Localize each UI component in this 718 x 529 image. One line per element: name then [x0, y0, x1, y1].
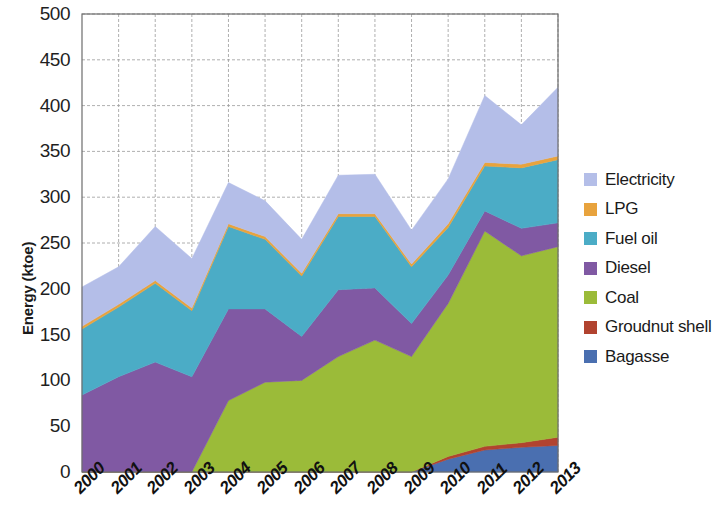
y-axis-tick-label: 400: [40, 96, 70, 115]
y-axis-tick-label: 250: [40, 233, 70, 252]
legend-item-label: Groudnut shell: [605, 317, 711, 337]
legend-item-label: Fuel oil: [605, 229, 657, 249]
legend-item-label: Bagasse: [605, 347, 669, 367]
legend-swatch-icon: [584, 262, 597, 275]
y-axis-tick-label: 350: [40, 141, 70, 160]
legend-swatch-icon: [584, 173, 597, 186]
legend-item-lpg[interactable]: LPG: [584, 195, 718, 225]
y-axis-tick-label: 150: [40, 325, 70, 344]
y-axis-tick-label: 500: [40, 4, 70, 23]
y-axis-tick-labels: 050100150200250300350400450500: [14, 0, 70, 529]
legend-item-diesel[interactable]: Diesel: [584, 254, 718, 284]
legend-item-label: Electricity: [605, 170, 674, 190]
y-axis-tick-label: 200: [40, 279, 70, 298]
legend-swatch-icon: [584, 321, 597, 334]
legend-item-label: Diesel: [605, 258, 650, 278]
legend-swatch-icon: [584, 232, 597, 245]
legend-item-coal[interactable]: Coal: [584, 283, 718, 313]
y-axis-tick-label: 0: [60, 462, 70, 481]
y-axis-tick-label: 450: [40, 50, 70, 69]
legend-item-fuel-oil[interactable]: Fuel oil: [584, 224, 718, 254]
legend-item-bagasse[interactable]: Bagasse: [584, 342, 718, 372]
legend-swatch-icon: [584, 203, 597, 216]
legend-swatch-icon: [584, 350, 597, 363]
chart-legend: ElectricityLPGFuel oilDieselCoalGroudnut…: [584, 165, 718, 372]
legend-item-groudnut-shell[interactable]: Groudnut shell: [584, 313, 718, 343]
y-axis-tick-label: 100: [40, 370, 70, 389]
stacked-area-chart: Energy (ktoe) 05010015020025030035040045…: [0, 0, 718, 529]
y-axis-tick-label: 50: [50, 416, 70, 435]
legend-item-label: Coal: [605, 288, 639, 308]
y-axis-tick-label: 300: [40, 187, 70, 206]
legend-item-electricity[interactable]: Electricity: [584, 165, 718, 195]
legend-item-label: LPG: [605, 199, 638, 219]
legend-swatch-icon: [584, 291, 597, 304]
